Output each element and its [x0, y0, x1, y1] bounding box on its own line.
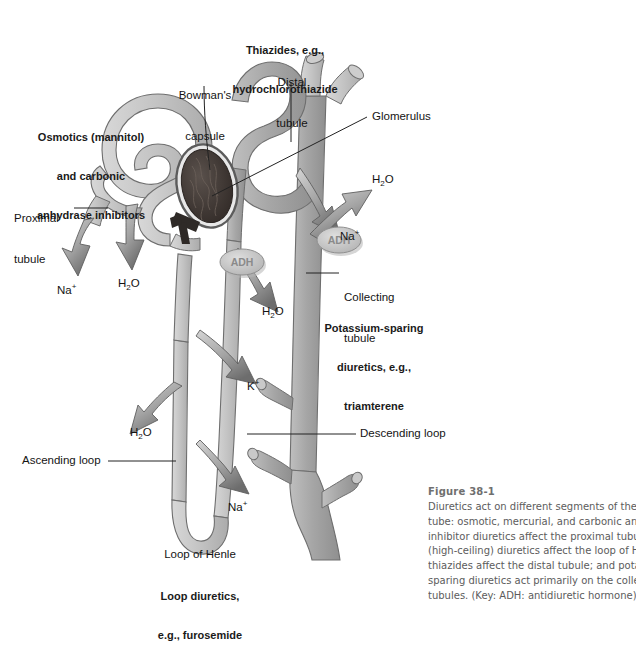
ion-label-h2o-collecting: H2O: [372, 173, 394, 189]
svg-text:ADH: ADH: [231, 256, 254, 268]
drug-label-loop-diuretics-line2: e.g., furosemide: [120, 629, 280, 642]
figure-caption-line-3: inhibitor diuretics affect the proximal …: [428, 530, 636, 545]
proximal-tubule-line2: tubule: [14, 253, 80, 267]
figure-caption-line-2: tube: osmotic, mercurial, and carbonic a…: [428, 515, 636, 530]
structure-label-descending-loop: Descending loop: [360, 427, 446, 441]
structure-label-distal-tubule: Distal tubule: [254, 49, 330, 158]
drug-label-osmotics-line2: and carbonic: [12, 170, 170, 183]
figure-caption-line-6: sparing diuretics act primarily on the c…: [428, 574, 636, 589]
proximal-tubule-line1: Proximal: [14, 212, 80, 226]
figure-caption-line-5: thiazides affect the distal tubule; and …: [428, 559, 636, 574]
ion-label-h2o-proximal: H2O: [118, 277, 140, 293]
ion-label-na-distal: Na+: [340, 228, 359, 243]
drug-label-potassium-sparing-line1: Potassium-sparing: [312, 322, 436, 335]
drug-label-potassium-sparing: Potassium-sparing diuretics, e.g., triam…: [312, 296, 436, 439]
figure-caption-line-1: Diuretics act on different segments of t…: [428, 500, 636, 515]
structure-label-glomerulus: Glomerulus: [372, 110, 431, 124]
structure-label-loop-of-henle: Loop of Henle: [120, 548, 280, 562]
bowmans-capsule-line1: Bowman's: [150, 89, 260, 103]
distal-tubule-line1: Distal: [254, 76, 330, 90]
figure-caption-line-4: (high-ceiling) diuretics affect the loop…: [428, 544, 636, 559]
ion-label-k-ascending: K+: [247, 378, 259, 393]
drug-label-potassium-sparing-line3: triamterene: [312, 400, 436, 413]
ion-label-na-proximal: Na+: [57, 282, 76, 297]
ion-label-h2o-distal: H2O: [262, 305, 284, 321]
drug-label-osmotics-line1: Osmotics (mannitol): [12, 131, 170, 144]
structure-label-proximal-tubule: Proximal tubule: [14, 185, 80, 294]
ion-label-h2o-descending: H2O: [130, 426, 152, 442]
figure-caption-line-7: tubules. (Key: ADH: antidiuretic hormone…: [428, 589, 636, 604]
distal-tubule-line2: tubule: [254, 117, 330, 131]
figure-caption: Figure 38-1 Diuretics act on different s…: [428, 486, 636, 604]
drug-label-potassium-sparing-line2: diuretics, e.g.,: [312, 361, 436, 374]
drug-label-loop-diuretics: Loop diuretics, e.g., furosemide: [120, 564, 280, 645]
ion-label-na-ascending: Na+: [228, 499, 247, 514]
drug-label-loop-diuretics-line1: Loop diuretics,: [120, 590, 280, 603]
structure-label-ascending-loop: Ascending loop: [22, 454, 101, 468]
figure-number: Figure 38-1: [428, 486, 636, 497]
